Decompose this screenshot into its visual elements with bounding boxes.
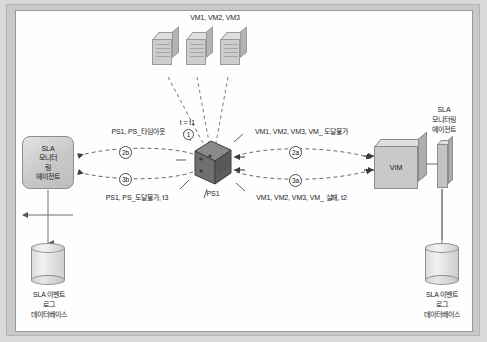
agent-right-line2: 모니터링 <box>410 115 478 125</box>
sla-monitoring-agent-right-label: SLA 모니터링 에이전트 <box>410 105 478 135</box>
vm-server-1-front <box>152 39 172 65</box>
agent-right-front <box>437 144 448 188</box>
sla-monitoring-agent-right <box>437 140 453 188</box>
sla-monitoring-agent-left: SLA 모니터 링 에이전트 <box>22 136 74 189</box>
vm-server-1 <box>152 32 178 65</box>
db-right-top <box>425 243 459 253</box>
agent-right-side <box>448 136 453 184</box>
db-right-line2: 로그 <box>401 300 483 310</box>
db-left-top <box>31 243 65 253</box>
vim-front: VIM <box>374 146 418 189</box>
diagram-canvas: VM1, VM2, VM3 <box>0 0 487 342</box>
db-right-label: SLA 이벤트 로그 데이터베이스 <box>401 290 483 320</box>
vim-side <box>418 131 427 182</box>
message-left-bottom: PS1, PS_도달불가, t3 <box>72 193 202 202</box>
step-marker-2a: 2a <box>289 146 302 159</box>
ps1-server-cube <box>193 139 233 186</box>
db-right-bottom <box>425 275 459 285</box>
message-right-top: VM1, VM2, VM3, VM_ 도달불가 <box>234 127 369 136</box>
vm-server-1-side <box>172 26 179 58</box>
db-right-line1: SLA 이벤트 <box>401 290 483 300</box>
agent-right-line3: 에이전트 <box>410 125 478 135</box>
vm-server-2 <box>186 32 212 65</box>
vim-label: VIM <box>390 164 402 171</box>
vm-server-2-front <box>186 39 206 65</box>
vm-server-2-side <box>206 26 213 58</box>
sla-event-log-database-right <box>425 243 459 285</box>
db-left-bottom <box>31 275 65 285</box>
agent-left-line3: 링 <box>45 163 51 173</box>
vm-server-3-side <box>240 26 247 58</box>
message-right-bottom: VM1, VM2, VM3, VM_ 실패, t2 <box>234 193 369 202</box>
vm-stack-label: VM1, VM2, VM3 <box>160 13 270 22</box>
step-marker-3a: 3a <box>289 174 302 187</box>
vim-node: VIM <box>374 139 427 189</box>
message-left-top: PS1, PS_타임아웃 <box>78 127 198 136</box>
agent-right-line1: SLA <box>410 105 478 115</box>
vm-server-3 <box>220 32 246 65</box>
agent-left-line2: 모니터 <box>39 153 57 163</box>
db-left-line1: SLA 이벤트 <box>8 290 90 300</box>
db-left-line2: 로그 <box>8 300 90 310</box>
vm-server-3-front <box>220 39 240 65</box>
db-right-line3: 데이터베이스 <box>401 310 483 320</box>
sla-event-log-database-left <box>31 243 65 285</box>
agent-left-line1: SLA <box>41 144 54 154</box>
time-label: t = t1 <box>155 118 195 127</box>
db-left-line3: 데이터베이스 <box>8 310 90 320</box>
step-marker-2b: 2b <box>119 146 132 159</box>
step-marker-3b: 3b <box>119 173 132 186</box>
agent-left-line4: 에이전트 <box>36 172 60 182</box>
db-left-label: SLA 이벤트 로그 데이터베이스 <box>8 290 90 320</box>
